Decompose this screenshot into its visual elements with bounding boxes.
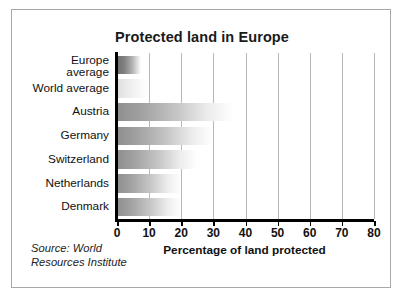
category-label-netherlands: Netherlands <box>0 177 109 190</box>
chart-figure-frame: Protected land in Europe EuropeaverageWo… <box>11 9 391 288</box>
gridline-80 <box>374 53 375 219</box>
category-label-austria: Austria <box>0 105 109 118</box>
gridline-30 <box>213 53 214 219</box>
category-label-line-1: Austria <box>0 105 109 118</box>
category-label-line-1: Denmark <box>0 200 109 213</box>
x-tick-label-50: 50 <box>263 226 293 240</box>
gridline-50 <box>278 53 279 219</box>
bar-switzerland <box>117 150 197 169</box>
x-tick-label-10: 10 <box>134 226 164 240</box>
y-axis-line <box>115 52 118 220</box>
category-label-line-1: Switzerland <box>0 153 109 166</box>
x-tick-label-20: 20 <box>166 226 196 240</box>
bar-netherlands <box>117 174 181 193</box>
category-label-europe-average: Europeaverage <box>0 54 109 79</box>
category-label-germany: Germany <box>0 129 109 142</box>
bar-europe-average <box>117 56 141 75</box>
category-label-switzerland: Switzerland <box>0 153 109 166</box>
x-tick-label-30: 30 <box>198 226 228 240</box>
x-axis-line <box>115 219 374 222</box>
x-tick-label-40: 40 <box>231 226 261 240</box>
gridline-60 <box>310 53 311 219</box>
gridline-40 <box>246 53 247 219</box>
category-label-line-1: World average <box>0 82 109 95</box>
x-tick-label-80: 80 <box>359 226 389 240</box>
source-line-1: Source: World <box>31 241 141 255</box>
gridline-70 <box>342 53 343 219</box>
bar-austria <box>117 103 233 122</box>
category-label-line-2: average <box>0 66 109 79</box>
category-label-line-1: Germany <box>0 129 109 142</box>
x-tick-label-60: 60 <box>295 226 325 240</box>
bar-denmark <box>117 198 181 217</box>
bar-world-average <box>117 79 149 98</box>
x-tick-label-0: 0 <box>102 226 132 240</box>
source-note: Source: World Resources Institute <box>31 241 141 269</box>
category-label-world-average: World average <box>0 82 109 95</box>
category-label-denmark: Denmark <box>0 200 109 213</box>
x-tick-label-70: 70 <box>327 226 357 240</box>
x-axis-title: Percentage of land protected <box>115 243 374 257</box>
category-label-line-1: Netherlands <box>0 177 109 190</box>
source-line-2: Resources Institute <box>31 255 141 269</box>
bar-germany <box>117 127 213 146</box>
